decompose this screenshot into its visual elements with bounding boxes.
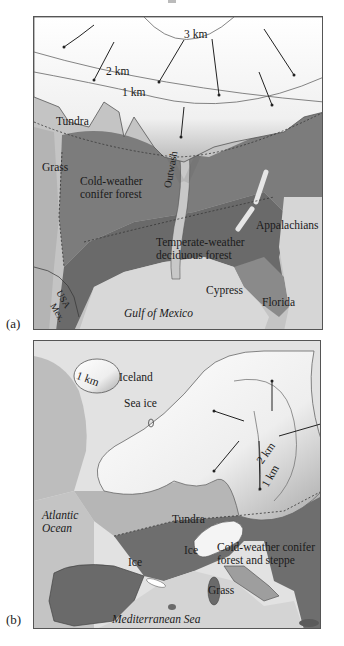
map-panel-europe: 1 km Iceland Sea ice 2 km 1 km Atlantic …	[33, 340, 321, 629]
contour-label-3km: 3 km	[184, 28, 207, 40]
map-panel-north-america: 3 km 2 km 1 km Tundra Grass Cold-weather…	[33, 16, 323, 330]
label-deciduous-line2: deciduous forest	[156, 249, 232, 261]
label-appalachians: Appalachians	[256, 219, 319, 231]
label-grass: Grass	[42, 161, 68, 173]
cropped-caption-fragment	[168, 0, 176, 3]
label-grass: Grass	[208, 584, 234, 596]
label-tundra: Tundra	[172, 513, 205, 525]
north-america-map	[34, 17, 323, 330]
label-deciduous-line1: Temperate-weather	[156, 236, 245, 248]
label-cypress: Cypress	[206, 284, 243, 296]
label-ice-alps: Ice	[184, 544, 198, 556]
label-conifer-line1: Cold-weather conifer	[217, 541, 315, 553]
label-tundra: Tundra	[56, 115, 89, 127]
label-mediterranean-sea: Mediterranean Sea	[112, 613, 200, 625]
label-conifer-line1: Cold-weather	[80, 175, 143, 187]
europe-map	[34, 341, 321, 629]
label-gulf-of-mexico: Gulf of Mexico	[124, 307, 193, 319]
panel-letter-b: (b)	[6, 612, 21, 628]
contour-label-1km: 1 km	[122, 86, 145, 98]
label-conifer-line2: conifer forest	[80, 188, 142, 200]
label-conifer-line2: forest and steppe	[217, 554, 295, 566]
label-atlantic-line1: Atlantic	[42, 509, 78, 521]
label-florida: Florida	[262, 296, 295, 308]
label-atlantic-line2: Ocean	[42, 522, 72, 534]
panel-letter-a: (a)	[6, 316, 20, 332]
label-sea-ice: Sea ice	[124, 397, 157, 409]
label-iceland: Iceland	[119, 371, 153, 383]
label-ice-pyrenees: Ice	[128, 556, 142, 568]
contour-label-2km: 2 km	[106, 65, 129, 77]
